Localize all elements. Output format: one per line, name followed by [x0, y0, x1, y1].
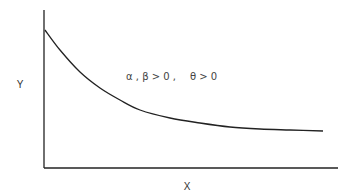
annotation-alpha-beta: α , β > 0 , — [126, 71, 176, 82]
chart: Y X α , β > 0 , θ > 0 — [0, 0, 354, 195]
annotation-theta: θ > 0 — [190, 71, 217, 82]
y-axis-label: Y — [17, 79, 24, 90]
decay-curve — [45, 30, 323, 131]
x-axis-label: X — [184, 181, 191, 192]
